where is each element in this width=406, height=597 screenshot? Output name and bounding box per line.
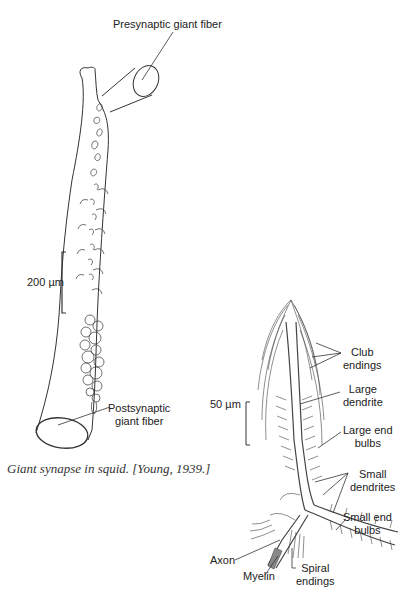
small-dendrites-line1: Small <box>350 468 395 481</box>
large-end-bulbs-line2: bulbs <box>343 437 393 450</box>
label-postsynaptic-giant-fiber: Postsynaptic giant fiber <box>108 402 170 428</box>
large-dendrite-line1: Large <box>343 383 383 396</box>
postsynaptic-line1: Postsynaptic <box>108 402 170 415</box>
large-dendrite-line2: dendrite <box>343 396 383 409</box>
label-scale-200um: 200 µm <box>27 276 64 289</box>
small-end-bulbs-line2: bulbs <box>343 524 392 537</box>
label-myelin: Myelin <box>243 570 275 583</box>
label-club-endings: Club endings <box>343 346 382 372</box>
club-line1: Club <box>343 346 382 359</box>
figure-caption: Giant synapse in squid. [Young, 1939.] <box>7 461 210 477</box>
label-presynaptic-giant-fiber: Presynaptic giant fiber <box>113 18 222 31</box>
spiral-line1: Spiral <box>296 562 335 575</box>
club-line2: endings <box>343 359 382 372</box>
label-large-end-bulbs: Large end bulbs <box>343 424 393 450</box>
label-spiral-endings: Spiral endings <box>296 562 335 588</box>
spiral-line2: endings <box>296 575 335 588</box>
small-end-bulbs-line1: Small end <box>343 511 392 524</box>
label-small-dendrites: Small dendrites <box>350 468 395 494</box>
postsynaptic-line2: giant fiber <box>108 415 170 428</box>
label-axon: Axon <box>210 554 235 567</box>
diagram-drawing <box>0 0 406 597</box>
label-small-end-bulbs: Small end bulbs <box>343 511 392 537</box>
label-scale-50um: 50 µm <box>210 398 241 411</box>
label-large-dendrite: Large dendrite <box>343 383 383 409</box>
large-end-bulbs-line1: Large end <box>343 424 393 437</box>
small-dendrites-line2: dendrites <box>350 481 395 494</box>
